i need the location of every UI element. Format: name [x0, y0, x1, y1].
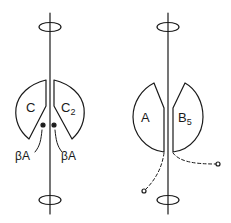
label-a: A	[141, 110, 150, 125]
label-c2: C2	[61, 100, 75, 117]
site-dot-left	[41, 123, 45, 127]
label-beta-a-left: βA	[15, 149, 30, 163]
right-figure: A B5	[133, 13, 220, 214]
tether-dashed-left	[146, 153, 164, 189]
diagram-canvas: C C2 βA βA A B5	[0, 0, 231, 223]
leader-line-left	[35, 130, 42, 152]
tether-end-left	[142, 189, 146, 193]
label-beta-a-right: βA	[61, 149, 76, 163]
left-figure: C C2 βA βA	[15, 13, 84, 214]
tether-end-right	[216, 162, 220, 166]
tether-dashed-right	[173, 153, 216, 164]
site-dot-right	[52, 123, 56, 127]
label-b5: B5	[178, 110, 192, 127]
label-c: C	[26, 100, 35, 115]
